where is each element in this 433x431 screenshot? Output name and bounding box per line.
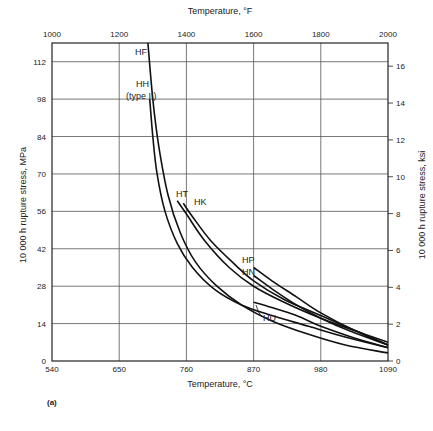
curve-label-hk: HK (194, 197, 207, 207)
curve-label-hn: HN (242, 267, 255, 277)
grid (52, 43, 388, 361)
x-axis-top-label: Temperature, °F (188, 6, 253, 16)
curve-label-ht: HT (176, 189, 188, 199)
x-top-tick-label: 1600 (245, 30, 263, 39)
y-axis-label: 10 000 h rupture stress, MPa (18, 147, 28, 263)
x-top-tick-label: 2000 (379, 30, 397, 39)
x-top-tick-label: 1000 (43, 30, 61, 39)
y-right-tick-label: 10 (396, 173, 405, 182)
curve-label-hh-type: (type II) (126, 91, 157, 101)
y-right-tick-label: 6 (396, 246, 401, 255)
plot-frame (52, 43, 388, 361)
y-tick-label: 0 (42, 357, 47, 366)
x-top-tick-label: 1400 (178, 30, 196, 39)
x-tick-label: 870 (247, 365, 261, 374)
x-tick-label: 540 (45, 365, 59, 374)
x-tick-label: 760 (180, 365, 194, 374)
x-tick-label: 650 (113, 365, 127, 374)
axis-ticks: 5406507608709801090100012001400160018002… (33, 30, 405, 374)
y-right-tick-label: 14 (396, 99, 405, 108)
y-tick-label: 14 (37, 320, 46, 329)
y-tick-label: 98 (37, 95, 46, 104)
y-tick-label: 56 (37, 207, 46, 216)
y-tick-label: 70 (37, 170, 46, 179)
x-tick-label: 980 (314, 365, 328, 374)
x-top-tick-label: 1800 (312, 30, 330, 39)
x-tick-label: 1090 (379, 365, 397, 374)
y-right-tick-label: 16 (396, 62, 405, 71)
curve-label-hu: HU (263, 313, 276, 323)
y-right-tick-label: 0 (396, 357, 401, 366)
x-axis-label: Temperature, °C (187, 379, 253, 389)
rupture-stress-chart: 5406507608709801090100012001400160018002… (0, 0, 433, 431)
y-axis-right-label: 10 000 h rupture stress, ksi (417, 151, 427, 260)
figure-caption: (a) (47, 398, 57, 407)
y-right-tick-label: 2 (396, 320, 401, 329)
y-right-tick-label: 4 (396, 283, 401, 292)
y-tick-label: 112 (33, 58, 46, 67)
curve-label-hp: HP (242, 255, 255, 265)
y-right-tick-label: 12 (396, 136, 405, 145)
curve-ht (177, 201, 388, 343)
y-tick-label: 84 (37, 133, 46, 142)
x-top-tick-label: 1200 (110, 30, 128, 39)
curve-label-hf: HF (135, 47, 147, 57)
y-right-tick-label: 8 (396, 210, 401, 219)
y-tick-label: 28 (37, 282, 46, 291)
y-tick-label: 42 (37, 245, 46, 254)
curve-label-hh: HH (136, 79, 149, 89)
